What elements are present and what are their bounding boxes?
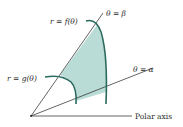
origin-point [30,115,32,117]
label-outer-curve: r = f(θ) [50,17,78,26]
shaded-region [60,25,106,101]
label-polar-axis: Polar axis [135,112,172,121]
label-ray-alpha: θ = α [133,65,154,74]
label-ray-beta: θ = β [106,9,127,18]
label-inner-curve: r = g(θ) [7,74,37,83]
polar-region-diagram: r = f(θ) r = g(θ) θ = β θ = α Polar axis [0,0,183,127]
